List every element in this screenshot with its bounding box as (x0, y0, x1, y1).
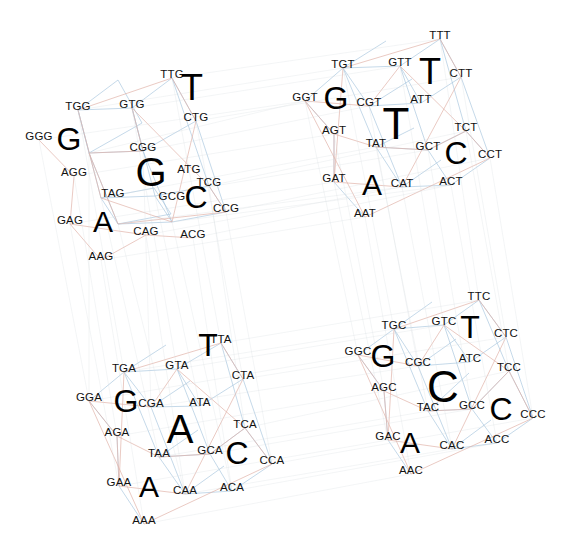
node-label-gac: GAC (375, 431, 401, 443)
big-letter-t-7: T (383, 102, 410, 146)
edge-network (0, 0, 583, 556)
node-label-gct: GCT (416, 141, 441, 153)
node-label-ccg: CCG (213, 203, 239, 215)
big-letter-g-2: G (135, 152, 166, 192)
node-label-tca: TCA (233, 419, 257, 431)
node-label-tgt: TGT (331, 59, 355, 71)
node-label-tgg: TGG (65, 101, 91, 113)
node-label-tgc: TGC (382, 320, 407, 332)
node-label-cca: CCA (260, 455, 285, 467)
big-letter-c-3: C (184, 181, 207, 213)
node-label-ttt: TTT (429, 30, 451, 42)
node-label-gtc: GTC (432, 316, 457, 328)
edge (394, 329, 428, 411)
node-label-gcc: GCC (459, 400, 485, 412)
node-label-cgt: CGT (357, 97, 382, 109)
big-letter-a-14: A (139, 472, 159, 502)
big-letter-c-17: C (427, 365, 459, 409)
node-label-cga: CGA (138, 398, 164, 410)
node-label-cta: CTA (232, 370, 255, 382)
codon-cube-figure: TTGTGGGTGCTGGGGCGGATGAGGTCGTAGGCGCCGGAGC… (0, 0, 583, 556)
big-letter-a-9: A (362, 170, 382, 200)
big-letter-g-16: G (371, 340, 396, 372)
big-letter-a-4: A (93, 207, 113, 237)
node-label-aaa: AAA (132, 515, 156, 527)
edge (70, 224, 119, 486)
node-label-gtg: GTG (119, 99, 145, 111)
edge (74, 134, 334, 176)
node-label-gga: GGA (76, 392, 102, 404)
big-letter-t-10: T (198, 329, 218, 361)
big-letter-a-19: A (400, 428, 420, 458)
node-label-tga: TGA (112, 363, 136, 375)
node-label-agt: AGT (322, 125, 346, 137)
node-label-att: ATT (410, 94, 431, 106)
node-label-atc: ATC (459, 353, 482, 365)
node-label-ctt: CTT (450, 68, 473, 80)
node-label-gta: GTA (165, 360, 188, 372)
edge (144, 474, 411, 524)
node-label-gat: GAT (322, 173, 345, 185)
node-label-aag: AAG (89, 251, 114, 263)
node-label-acc: ACC (485, 434, 510, 446)
big-letter-t-0: T (181, 70, 203, 106)
big-letter-t-15: T (460, 311, 480, 343)
edge (440, 39, 466, 131)
big-letter-g-1: G (57, 123, 82, 155)
node-label-ggt: GGT (292, 92, 318, 104)
node-label-acg: ACG (180, 229, 206, 241)
node-label-atg: ATG (177, 164, 200, 176)
node-label-agc: AGC (371, 382, 397, 394)
edge (39, 140, 89, 401)
node-label-ggg: GGG (25, 131, 52, 143)
node-label-cag: CAG (133, 226, 159, 238)
node-label-ttc: TTC (468, 291, 491, 303)
node-label-tct: TCT (455, 122, 478, 134)
edge (210, 409, 472, 454)
edge (490, 158, 533, 418)
node-label-ccc: CCC (520, 409, 546, 421)
node-label-gaa: GAA (107, 477, 132, 489)
big-letter-g-6: G (324, 82, 349, 114)
node-label-aat: AAT (354, 208, 376, 220)
big-letter-c-8: C (444, 137, 467, 169)
node-label-agg: AGG (61, 167, 87, 179)
big-letter-c-13: C (225, 437, 248, 469)
node-label-cat: CAT (391, 178, 414, 190)
big-letter-t-5: T (419, 54, 441, 90)
node-label-cac: CAC (440, 440, 465, 452)
big-letter-g-11: G (114, 385, 139, 417)
big-letter-c-18: C (489, 393, 512, 425)
node-label-ggc: GGC (345, 346, 372, 358)
node-label-ctg: CTG (184, 112, 209, 124)
node-label-gca: GCA (197, 445, 223, 457)
node-label-caa: CAA (173, 485, 197, 497)
node-label-gtt: GTT (388, 57, 412, 69)
edge (89, 401, 144, 524)
node-label-aga: AGA (105, 427, 130, 439)
big-letter-a-12: A (167, 409, 194, 449)
node-label-tag: TAG (101, 188, 124, 200)
edge (144, 464, 272, 524)
node-label-cct: CCT (478, 149, 502, 161)
node-label-gag: GAG (57, 215, 83, 227)
node-label-act: ACT (439, 176, 463, 188)
node-label-aac: AAC (399, 465, 423, 477)
node-label-ctc: CTC (494, 328, 518, 340)
edge (334, 182, 388, 440)
node-label-aca: ACA (220, 482, 244, 494)
node-label-tcc: TCC (497, 362, 521, 374)
